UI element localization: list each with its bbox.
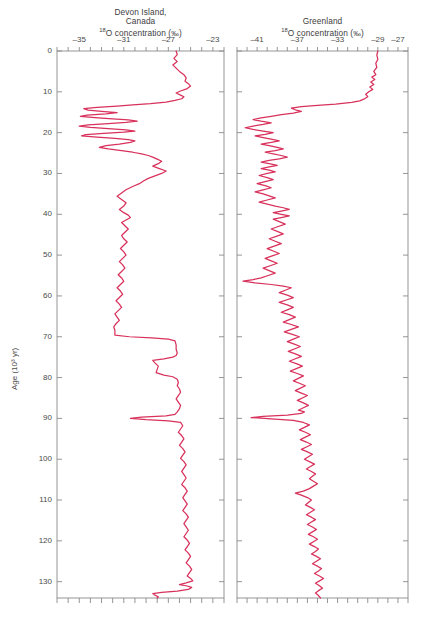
data-curve-greenland [243,51,378,598]
data-curve-devon [79,51,193,598]
figure-root: Devon Island, Canada 18O concentration (… [0,0,425,620]
plot-svg [0,0,425,620]
